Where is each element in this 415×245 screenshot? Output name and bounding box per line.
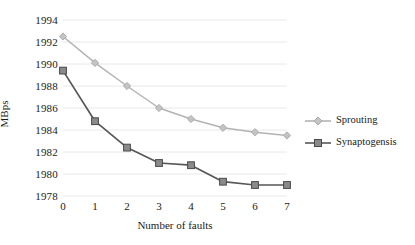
data-point-marker xyxy=(252,182,259,189)
x-axis-tick-label: 5 xyxy=(220,200,226,212)
legend-item-synaptogensis: Synaptogensis xyxy=(305,130,415,152)
x-axis-tick-labels: 01234567 xyxy=(0,200,415,218)
x-axis-tick-label: 3 xyxy=(156,200,162,212)
data-point-marker xyxy=(187,115,194,122)
series-line xyxy=(63,71,287,185)
line-chart: 197819801982198419861988199019921994 MBp… xyxy=(0,0,415,245)
y-axis-tick-label: 1992 xyxy=(35,36,58,48)
data-point-marker xyxy=(60,67,67,74)
x-axis-title: Number of faults xyxy=(63,219,287,231)
series-synaptogensis xyxy=(60,67,291,188)
y-axis-title: MBps xyxy=(0,101,10,128)
plot-canvas xyxy=(63,20,287,196)
x-axis-tick-label: 6 xyxy=(252,200,258,212)
gridlines xyxy=(63,20,287,196)
data-point-marker xyxy=(188,162,195,169)
legend-item-sprouting: Sprouting xyxy=(305,108,415,130)
y-axis-tick-label: 1986 xyxy=(35,102,58,114)
data-point-marker xyxy=(124,144,131,151)
legend-label-synaptogensis: Synaptogensis xyxy=(336,136,397,147)
data-point-marker xyxy=(220,178,227,185)
plot-area xyxy=(63,20,287,196)
x-axis-tick-label: 7 xyxy=(284,200,290,212)
legend-label-sprouting: Sprouting xyxy=(336,114,377,125)
y-axis-tick-label: 1980 xyxy=(35,168,58,180)
chart-legend: Sprouting Synaptogensis xyxy=(305,108,415,152)
y-axis-tick-label: 1994 xyxy=(35,14,58,26)
y-axis-tick-label: 1988 xyxy=(35,80,58,92)
x-axis-tick-label: 0 xyxy=(60,200,66,212)
legend-marker-square-icon xyxy=(305,135,331,147)
y-axis-tick-label: 1990 xyxy=(35,58,58,70)
y-axis-tick-label: 1984 xyxy=(35,124,58,136)
data-point-marker xyxy=(156,160,163,167)
x-axis-tick-label: 1 xyxy=(92,200,98,212)
data-point-marker xyxy=(92,118,99,125)
series-layer xyxy=(59,33,290,189)
x-axis-tick-label: 4 xyxy=(188,200,194,212)
x-axis-tick-label: 2 xyxy=(124,200,130,212)
y-axis-tick-label: 1982 xyxy=(35,146,58,158)
data-point-marker xyxy=(283,132,290,139)
legend-marker-diamond-icon xyxy=(305,113,331,125)
data-point-marker xyxy=(284,182,291,189)
